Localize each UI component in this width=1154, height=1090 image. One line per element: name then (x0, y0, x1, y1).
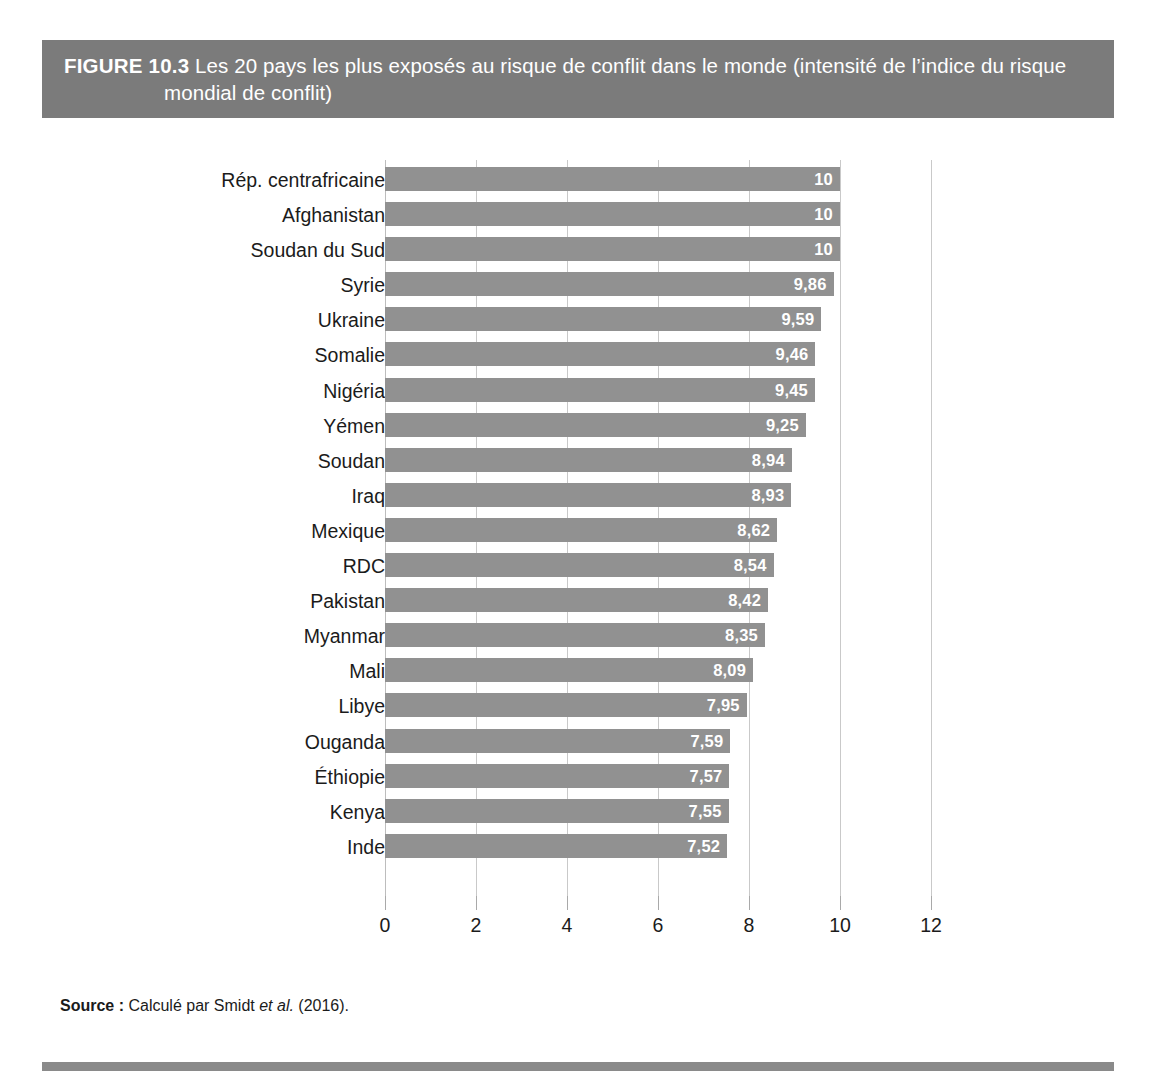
x-tick-mark (567, 896, 568, 910)
x-tick-label: 6 (638, 914, 678, 937)
x-axis: 024681012 (42, 896, 1114, 946)
bar-value-label: 10 (814, 239, 833, 259)
bar: 8,62 (385, 518, 777, 542)
category-label: Soudan du Sud (85, 238, 385, 262)
category-label: Yémen (85, 414, 385, 438)
source-note: Source : Calculé par Smidt et al. (2016)… (60, 997, 349, 1015)
x-tick-label: 2 (456, 914, 496, 937)
category-label: Nigéria (85, 379, 385, 403)
bar-row: Ukraine9,59 (42, 305, 1114, 340)
bar-value-label: 8,09 (713, 660, 746, 680)
x-tick-label: 4 (547, 914, 587, 937)
bar-row: Soudan du Sud10 (42, 235, 1114, 270)
bar-row: Iraq8,93 (42, 481, 1114, 516)
bar-row: Libye7,95 (42, 691, 1114, 726)
bar-value-label: 9,46 (776, 344, 809, 364)
bar-row: Soudan8,94 (42, 446, 1114, 481)
bar-value-label: 9,25 (766, 415, 799, 435)
bar: 10 (385, 202, 840, 226)
figure-title-line-2: mondial de conflit) (64, 79, 1096, 106)
bar-row: Pakistan8,42 (42, 586, 1114, 621)
bar: 7,95 (385, 693, 747, 717)
bar: 8,42 (385, 588, 768, 612)
bar: 9,59 (385, 307, 821, 331)
bar: 7,52 (385, 834, 727, 858)
figure-title-bar: FIGURE 10.3 Les 20 pays les plus exposés… (42, 40, 1114, 118)
bar-value-label: 8,42 (728, 590, 761, 610)
bar-value-label: 7,95 (707, 695, 740, 715)
x-tick-mark (476, 896, 477, 910)
category-label: Mexique (85, 519, 385, 543)
x-tick-label: 8 (729, 914, 769, 937)
bar-value-label: 7,59 (690, 731, 723, 751)
bar-row: RDC8,54 (42, 551, 1114, 586)
source-text-before: Calculé par Smidt (124, 997, 259, 1014)
figure-title: FIGURE 10.3 Les 20 pays les plus exposés… (64, 52, 1096, 106)
bar: 10 (385, 167, 840, 191)
bar-value-label: 8,93 (751, 485, 784, 505)
bar-row: Nigéria9,45 (42, 376, 1114, 411)
category-label: Ouganda (85, 730, 385, 754)
bar-value-label: 7,52 (687, 836, 720, 856)
source-etal: et al. (259, 997, 294, 1014)
x-tick-label: 0 (365, 914, 405, 937)
category-label: Rép. centrafricaine (85, 168, 385, 192)
category-label: Pakistan (85, 589, 385, 613)
bar: 9,45 (385, 378, 815, 402)
category-label: Ukraine (85, 308, 385, 332)
figure-title-line-1: Les 20 pays les plus exposés au risque d… (195, 54, 1066, 77)
source-label: Source : (60, 997, 124, 1014)
bar-rows: Rép. centrafricaine10Afghanistan10Soudan… (42, 165, 1114, 867)
bar-row: Rép. centrafricaine10 (42, 165, 1114, 200)
bar: 7,55 (385, 799, 729, 823)
bar-value-label: 8,62 (737, 520, 770, 540)
bar-row: Kenya7,55 (42, 797, 1114, 832)
bar-row: Ouganda7,59 (42, 727, 1114, 762)
bar: 9,46 (385, 342, 815, 366)
x-tick-mark (840, 896, 841, 910)
category-label: Afghanistan (85, 203, 385, 227)
bar-value-label: 8,54 (734, 555, 767, 575)
bar: 8,09 (385, 658, 753, 682)
bar: 8,93 (385, 483, 791, 507)
bar: 7,59 (385, 729, 730, 753)
bar-value-label: 8,35 (725, 625, 758, 645)
bar: 8,54 (385, 553, 774, 577)
category-label: Éthiopie (85, 765, 385, 789)
chart-area: Rép. centrafricaine10Afghanistan10Soudan… (42, 130, 1114, 960)
x-tick-mark (931, 896, 932, 910)
bar-row: Afghanistan10 (42, 200, 1114, 235)
bar-row: Somalie9,46 (42, 340, 1114, 375)
x-tick-mark (658, 896, 659, 910)
bar-value-label: 8,94 (752, 450, 785, 470)
category-label: RDC (85, 554, 385, 578)
bar: 9,86 (385, 272, 834, 296)
x-tick-label: 12 (911, 914, 951, 937)
bar-row: Éthiopie7,57 (42, 762, 1114, 797)
bar-value-label: 10 (814, 204, 833, 224)
bar-value-label: 7,57 (690, 766, 723, 786)
bar-value-label: 7,55 (689, 801, 722, 821)
bar-value-label: 9,86 (794, 274, 827, 294)
bottom-rule (42, 1062, 1114, 1071)
bar-row: Syrie9,86 (42, 270, 1114, 305)
category-label: Libye (85, 694, 385, 718)
figure-number-label: FIGURE 10.3 (64, 54, 189, 77)
category-label: Mali (85, 659, 385, 683)
bar-row: Mali8,09 (42, 656, 1114, 691)
bar: 7,57 (385, 764, 729, 788)
bar: 9,25 (385, 413, 806, 437)
category-label: Soudan (85, 449, 385, 473)
source-text-after: (2016). (294, 997, 349, 1014)
bar-value-label: 9,45 (775, 380, 808, 400)
category-label: Somalie (85, 343, 385, 367)
bar: 8,35 (385, 623, 765, 647)
category-label: Iraq (85, 484, 385, 508)
bar-row: Mexique8,62 (42, 516, 1114, 551)
category-label: Kenya (85, 800, 385, 824)
category-label: Myanmar (85, 624, 385, 648)
category-label: Syrie (85, 273, 385, 297)
bar-value-label: 10 (814, 169, 833, 189)
bar: 10 (385, 237, 840, 261)
bar: 8,94 (385, 448, 792, 472)
